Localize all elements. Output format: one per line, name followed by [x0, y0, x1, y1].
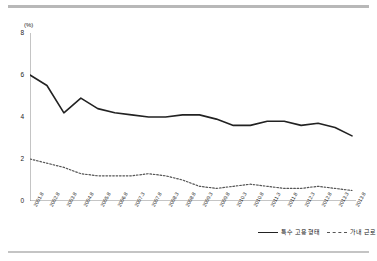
- plot-area: [30, 33, 356, 201]
- legend-item-0: 특수 고용 형태: [258, 229, 320, 235]
- legend-item-1: 가내 근로: [327, 229, 376, 235]
- legend-label-1: 가내 근로: [350, 229, 376, 235]
- legend-swatch-solid-icon: [258, 232, 278, 233]
- y-tick-label-2: 2: [10, 155, 24, 162]
- legend-swatch-dashed-icon: [327, 232, 347, 233]
- chart-figure: (%) 02468 2001.82002.82003.82004.82005.8…: [0, 0, 377, 261]
- bottom-divider-rule: [8, 251, 369, 253]
- line-chart-svg: [30, 33, 356, 201]
- chart-legend: 특수 고용 형태 가내 근로: [258, 229, 376, 235]
- legend-label-0: 특수 고용 형태: [281, 229, 320, 235]
- y-tick-label-8: 8: [10, 29, 24, 36]
- y-axis-unit-label: (%): [24, 22, 33, 28]
- top-divider-rule: [8, 5, 369, 8]
- y-tick-label-4: 4: [10, 113, 24, 120]
- y-tick-label-6: 6: [10, 71, 24, 78]
- y-tick-label-0: 0: [10, 197, 24, 204]
